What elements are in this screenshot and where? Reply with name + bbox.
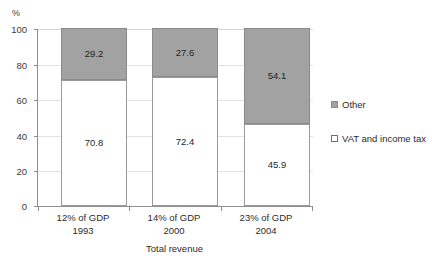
bar-segment-vat-1993[interactable]: 70.8 (61, 80, 127, 206)
y-tick-mark-20: 20 (34, 171, 38, 172)
bar-value-vat-2000: 72.4 (176, 137, 195, 147)
bar-group-2000[interactable]: 27.6 72.4 (152, 28, 218, 206)
bar-segment-other-1993[interactable]: 29.2 (61, 28, 127, 80)
bar-group-2004[interactable]: 54.1 45.9 (244, 28, 310, 206)
plot-area: 100 80 60 40 20 0 29.2 70.8 27.6 (37, 29, 312, 207)
x-category-label-2000-line1: 14% of GDP (128, 212, 220, 225)
x-axis-title: Total revenue (37, 243, 312, 254)
x-category-label-1993: 12% of GDP 1993 (37, 212, 129, 237)
x-tick-1 (129, 206, 130, 211)
y-tick-label-20: 20 (16, 166, 27, 177)
bar-segment-vat-2000[interactable]: 72.4 (152, 77, 218, 206)
legend-label-other: Other (342, 99, 366, 111)
bar-value-vat-1993: 70.8 (85, 138, 104, 148)
chart-legend: Other VAT and income tax (331, 99, 429, 166)
y-axis-unit-label: % (12, 8, 20, 18)
x-category-label-2000-line2: 2000 (128, 225, 220, 238)
legend-label-vat-and-income-tax: VAT and income tax (342, 133, 426, 145)
x-category-label-2004-line1: 23% of GDP (220, 212, 312, 225)
bar-segment-vat-2004[interactable]: 45.9 (244, 124, 310, 206)
bar-value-other-1993: 29.2 (85, 49, 104, 59)
y-tick-label-0: 0 (22, 201, 27, 212)
bar-value-vat-2004: 45.9 (268, 160, 287, 170)
clipped-chart-title (0, 0, 432, 4)
x-tick-3 (312, 206, 313, 211)
x-tick-0 (38, 206, 39, 211)
legend-swatch-other-icon (331, 101, 338, 108)
legend-item-other[interactable]: Other (331, 99, 429, 111)
y-tick-label-40: 40 (16, 130, 27, 141)
x-category-label-2004: 23% of GDP 2004 (220, 212, 312, 237)
y-tick-mark-80: 80 (34, 65, 38, 66)
legend-item-vat-and-income-tax[interactable]: VAT and income tax (331, 133, 429, 145)
bar-segment-other-2004[interactable]: 54.1 (244, 28, 310, 124)
y-tick-label-80: 80 (16, 59, 27, 70)
bar-segment-other-2000[interactable]: 27.6 (152, 28, 218, 77)
bar-stack-1993: 29.2 70.8 (61, 28, 127, 206)
x-category-label-1993-line1: 12% of GDP (37, 212, 129, 225)
legend-swatch-vat-icon (331, 135, 338, 142)
x-category-label-2004-line2: 2004 (220, 225, 312, 238)
y-tick-label-100: 100 (11, 24, 27, 35)
bar-stack-2000: 27.6 72.4 (152, 28, 218, 206)
y-tick-label-60: 60 (16, 95, 27, 106)
x-tick-2 (221, 206, 222, 211)
x-category-label-2000: 14% of GDP 2000 (128, 212, 220, 237)
x-category-label-1993-line2: 1993 (37, 225, 129, 238)
bar-value-other-2000: 27.6 (176, 48, 195, 58)
y-tick-mark-60: 60 (34, 100, 38, 101)
bar-group-1993[interactable]: 29.2 70.8 (61, 28, 127, 206)
bar-value-other-2004: 54.1 (268, 71, 287, 81)
y-tick-mark-40: 40 (34, 136, 38, 137)
y-tick-mark-100: 100 (34, 29, 38, 30)
bar-stack-2004: 54.1 45.9 (244, 28, 310, 206)
